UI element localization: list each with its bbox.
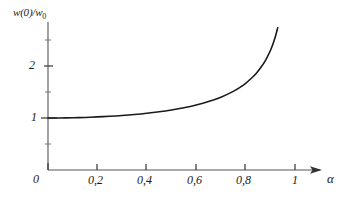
- data-curve: [48, 28, 278, 118]
- y-axis-label: w(0)/w0: [13, 7, 46, 21]
- x-tick-label-0.6: 0,6: [187, 174, 202, 186]
- x-tick-label-0.8: 0,8: [236, 174, 251, 186]
- plot-canvas: [0, 0, 343, 197]
- y-tick-label-2: 2: [29, 59, 35, 71]
- y-axis-label-subscript: 0: [42, 12, 46, 21]
- x-tick-label-1: 1: [292, 174, 298, 186]
- x-axis-label: α: [327, 172, 334, 185]
- y-tick-label-1: 1: [31, 111, 37, 123]
- x-tick-label-0.2: 0,2: [88, 174, 103, 186]
- x-tick-label-0: 0: [33, 173, 39, 185]
- figure-container: w(0)/w0 α 2 1 0 0,2 0,4 0,6 0,8 1: [0, 0, 343, 197]
- x-tick-label-0.4: 0,4: [137, 174, 152, 186]
- x-major-ticks: [48, 163, 295, 170]
- y-axis-label-text: w(0)/w: [13, 6, 42, 18]
